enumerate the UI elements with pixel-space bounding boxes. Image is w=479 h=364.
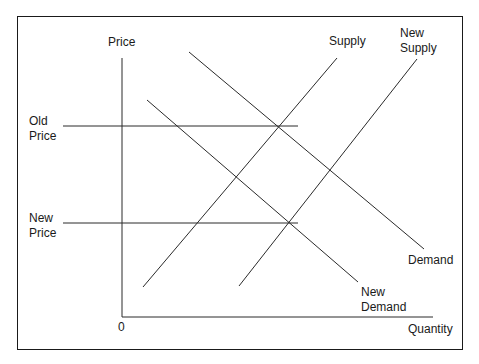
supply-curve [143,58,337,287]
demand-label: Demand [408,253,453,268]
new-supply-curve [239,59,417,286]
old-price-label: Old Price [29,114,56,144]
new-demand-label: New Demand [361,285,406,315]
new-supply-label: New Supply [400,26,437,56]
new-price-label: New Price [29,211,56,241]
origin-label: 0 [118,320,125,335]
new-demand-curve [147,100,358,282]
supply-label: Supply [329,34,366,49]
demand-curve [189,52,424,249]
price-axis-label: Price [108,35,135,50]
quantity-axis-label: Quantity [408,322,453,337]
